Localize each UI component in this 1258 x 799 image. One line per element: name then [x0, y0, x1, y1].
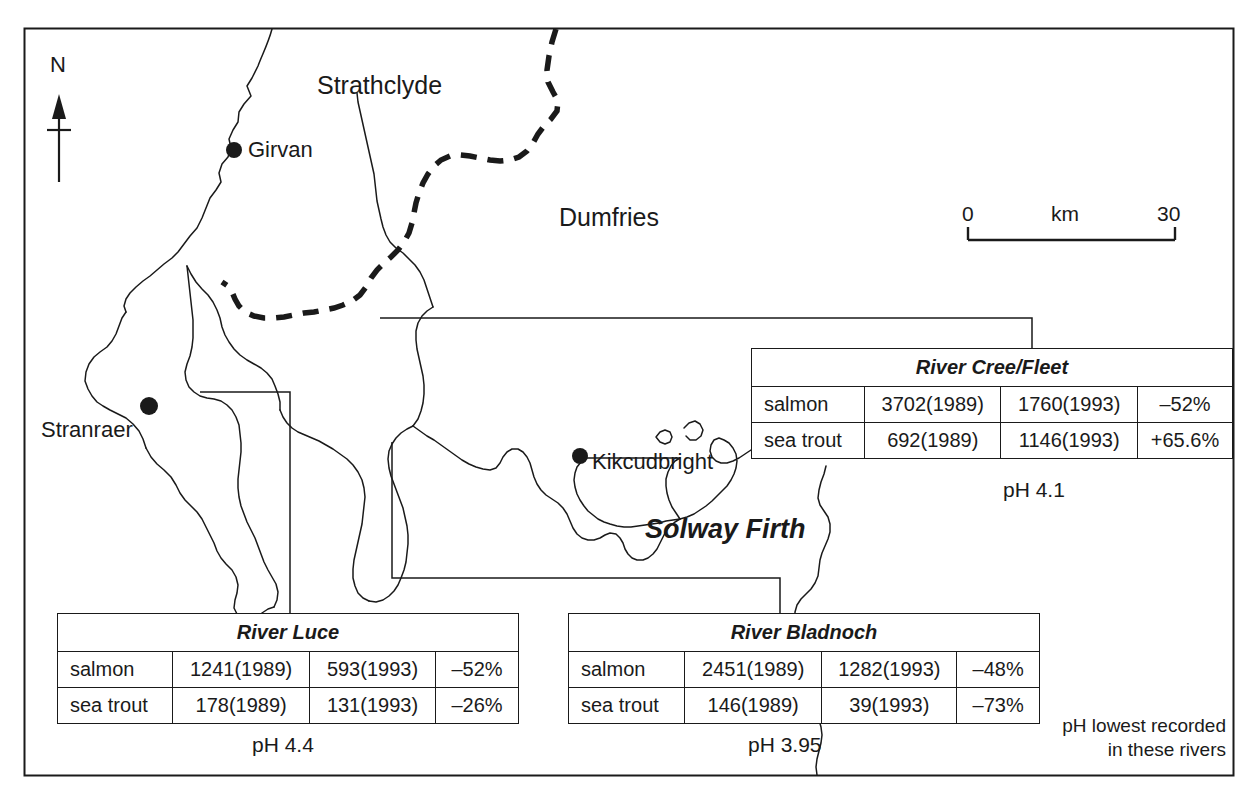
cell-species: salmon	[569, 652, 685, 688]
table-row: salmon 3702(1989) 1760(1993) –52%	[752, 387, 1233, 423]
ph-label-luce: pH 4.4	[252, 734, 314, 755]
town-label-girvan: Girvan	[248, 139, 313, 161]
table-title-cree-fleet: River Cree/Fleet	[752, 349, 1233, 387]
north-arrow	[47, 94, 71, 182]
cell-count-1989: 3702(1989)	[864, 387, 1000, 423]
cell-count-1993: 593(1993)	[309, 652, 435, 688]
town-dot-kikcudbright	[572, 448, 588, 464]
cell-count-1989: 692(1989)	[864, 423, 1000, 459]
town-dot-stranraer	[140, 397, 158, 415]
town-dot-girvan	[226, 142, 242, 158]
cell-change: –52%	[1137, 387, 1232, 423]
coastline-machars	[369, 426, 413, 602]
table-river-luce: River Luce salmon 1241(1989) 593(1993) –…	[57, 613, 519, 724]
cell-count-1993: 39(1993)	[822, 688, 957, 724]
cell-count-1989: 178(1989)	[173, 688, 309, 724]
table-title-bladnoch: River Bladnoch	[569, 614, 1040, 652]
table-river-bladnoch: River Bladnoch salmon 2451(1989) 1282(19…	[568, 613, 1040, 724]
cell-count-1993: 1282(1993)	[822, 652, 957, 688]
ph-note-line-2: in these rivers	[1006, 738, 1226, 762]
cell-species: sea trout	[569, 688, 685, 724]
scale-bar	[968, 227, 1175, 240]
cell-count-1989: 146(1989)	[684, 688, 822, 724]
town-label-stranraer: Stranraer	[41, 419, 133, 441]
cell-species: salmon	[58, 652, 173, 688]
table-river-cree-fleet: River Cree/Fleet salmon 3702(1989) 1760(…	[751, 348, 1233, 459]
table-title-row: River Luce	[58, 614, 519, 652]
table-title-row: River Bladnoch	[569, 614, 1040, 652]
ph-label-bladnoch: pH 3.95	[748, 734, 822, 755]
cell-change: –26%	[436, 688, 519, 724]
region-label-dumfries: Dumfries	[559, 205, 659, 230]
scale-bar-label-right: 30	[1157, 203, 1180, 224]
map-figure: N Strathclyde Dumfries Girvan Stranraer …	[0, 0, 1258, 799]
town-label-kikcudbright: Kikcudbright	[592, 451, 713, 473]
cell-count-1993: 1760(1993)	[1001, 387, 1137, 423]
cell-species: salmon	[752, 387, 865, 423]
cell-change: –52%	[436, 652, 519, 688]
coastline-solway-north	[413, 426, 680, 560]
north-arrow-label: N	[50, 54, 66, 76]
cell-species: sea trout	[58, 688, 173, 724]
table-row: sea trout 692(1989) 1146(1993) +65.6%	[752, 423, 1233, 459]
table-row: salmon 2451(1989) 1282(1993) –48%	[569, 652, 1040, 688]
leader-luce	[200, 392, 290, 613]
cell-count-1993: 1146(1993)	[1001, 423, 1137, 459]
coastline-loch-ryan-east	[187, 266, 280, 410]
table-row: sea trout 178(1989) 131(1993) –26%	[58, 688, 519, 724]
cell-species: sea trout	[752, 423, 865, 459]
water-label-solway-firth: Solway Firth	[645, 516, 806, 543]
cell-change: +65.6%	[1137, 423, 1232, 459]
cell-count-1989: 2451(1989)	[684, 652, 822, 688]
coastline-luce-bay-west	[280, 410, 369, 601]
table-row: sea trout 146(1989) 39(1993) –73%	[569, 688, 1040, 724]
table-row: salmon 1241(1989) 593(1993) –52%	[58, 652, 519, 688]
coastline-ayrshire	[124, 29, 272, 312]
cell-count-1989: 1241(1989)	[173, 652, 309, 688]
ph-label-cree-fleet: pH 4.1	[1003, 479, 1065, 500]
scale-bar-label-unit: km	[1051, 203, 1079, 224]
cell-count-1993: 131(1993)	[309, 688, 435, 724]
coastline-rhins-west	[146, 448, 274, 619]
leader-cree-fleet	[380, 318, 1032, 349]
coastline-wigtown-bay	[413, 307, 433, 426]
river-cree-upper	[357, 93, 433, 307]
region-label-strathclyde: Strathclyde	[317, 73, 442, 98]
town-markers	[140, 142, 588, 464]
coastline-inlet-detail	[684, 421, 703, 440]
scale-bar-label-left: 0	[962, 203, 974, 224]
coastline-islands	[656, 430, 672, 444]
cell-change: –48%	[957, 652, 1040, 688]
table-title-luce: River Luce	[58, 614, 519, 652]
table-title-row: River Cree/Fleet	[752, 349, 1233, 387]
cell-change: –73%	[957, 688, 1040, 724]
